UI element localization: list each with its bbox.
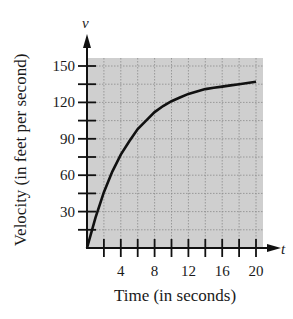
y-axis-variable: v [82, 15, 89, 31]
x-axis-arrow-icon [267, 244, 281, 252]
y-tick-label: 150 [53, 58, 76, 74]
x-tick-label: 4 [117, 263, 125, 279]
y-tick-label: 120 [53, 94, 76, 110]
plot-background [87, 58, 263, 248]
x-axis-variable: t [281, 241, 286, 257]
x-tick-label: 20 [249, 263, 264, 279]
velocity-chart: 48121620306090120150 v t Time (in second… [0, 0, 293, 319]
x-tick-label: 16 [215, 263, 231, 279]
x-axis-title: Time (in seconds) [114, 286, 236, 305]
y-axis-arrow-icon [83, 34, 91, 48]
x-tick-label: 8 [151, 263, 159, 279]
x-tick-label: 12 [181, 263, 196, 279]
y-tick-label: 30 [60, 204, 75, 220]
y-tick-label: 60 [60, 167, 75, 183]
y-axis-title: Velocity (in feet per second) [11, 54, 30, 247]
y-tick-label: 90 [60, 131, 75, 147]
